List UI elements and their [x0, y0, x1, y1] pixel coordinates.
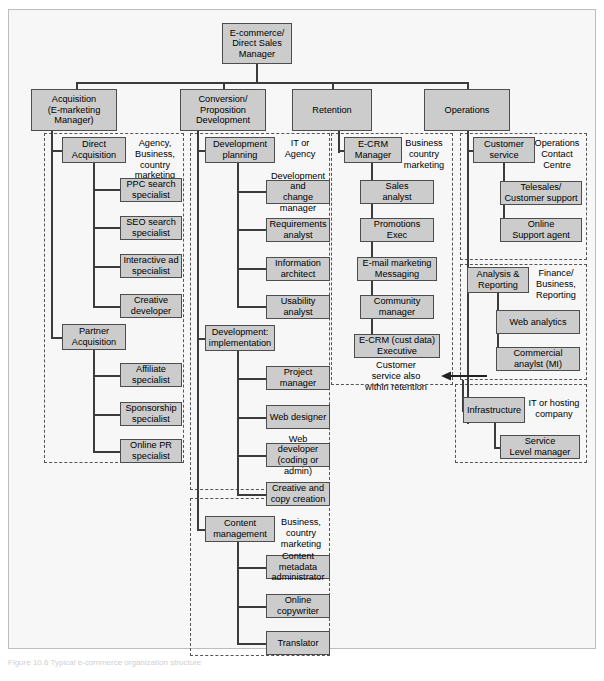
node-acquisition[interactable]: Acquisition (E-marketing Manager) — [31, 89, 117, 131]
node-online-pr-specialist[interactable]: Online PR specialist — [120, 439, 182, 463]
node-development-change-manager[interactable]: Development and change manager — [266, 180, 330, 204]
node-development-planning[interactable]: Development planning — [205, 137, 275, 163]
node-project-manager[interactable]: Project manager — [266, 366, 330, 390]
node-root[interactable]: E-commerce/ Direct Sales Manager — [222, 23, 292, 64]
node-service-level-manager[interactable]: Service Level manager — [500, 435, 580, 459]
node-conversion[interactable]: Conversion/ Proposition Development — [180, 89, 266, 131]
node-content-metadata-administrator[interactable]: Content metadata administrator — [266, 555, 330, 579]
node-telesales-customer-support[interactable]: Telesales/ Customer support — [500, 181, 582, 205]
node-sponsorship-specialist[interactable]: Sponsorship specialist — [120, 402, 182, 426]
caption-analysis-reporting-partner: Finance/ Business, Reporting — [528, 268, 584, 300]
node-creative-copy-creation[interactable]: Creative and copy creation — [266, 482, 330, 506]
node-creative-developer[interactable]: Creative developer — [120, 294, 182, 318]
caption-customer-service-partner: Operations Contact Centre — [531, 138, 583, 170]
connector-root-stem — [256, 64, 258, 83]
connector-development-implementation-reports — [237, 351, 269, 496]
node-content-management[interactable]: Content management — [205, 516, 275, 542]
node-direct-acquisition[interactable]: Direct Acquisition — [62, 137, 126, 163]
connector-conversion-spine — [197, 131, 199, 531]
node-translator[interactable]: Translator — [266, 631, 330, 655]
caption-ecrm-manager-partner: Business country marketing — [399, 138, 449, 170]
node-ppc-search-specialist[interactable]: PPC search specialist — [120, 178, 182, 202]
connector-level1-bus — [76, 82, 468, 84]
connector-content-management-reports — [237, 542, 269, 645]
node-partner-acquisition[interactable]: Partner Acquisition — [62, 324, 126, 350]
node-web-analytics[interactable]: Web analytics — [496, 310, 580, 334]
connector-direct-acquisition-reports — [93, 163, 123, 308]
node-ecrm-manager[interactable]: E-CRM Manager — [344, 137, 402, 163]
node-development-implementation[interactable]: Development: implementation — [205, 325, 275, 351]
node-sales-analyst[interactable]: Sales analyst — [360, 180, 434, 204]
node-web-designer[interactable]: Web designer — [266, 405, 330, 429]
node-affiliate-specialist[interactable]: Affiliate specialist — [120, 363, 182, 387]
arrow-customer-service-link — [441, 370, 487, 382]
node-community-manager[interactable]: Community manager — [360, 295, 434, 319]
caption-content-management-partner: Business, country marketing — [276, 517, 326, 549]
node-ecrm-cust-data-executive[interactable]: E-CRM (cust data) Executive — [354, 334, 440, 358]
node-requirements-analyst[interactable]: Requirements analyst — [266, 218, 330, 242]
node-promotions-exec[interactable]: Promotions Exec — [360, 218, 434, 242]
note-customer-service-within-retention: Customer service also within retention — [352, 360, 440, 392]
node-customer-service[interactable]: Customer service — [473, 137, 535, 163]
node-interactive-ad-specialist[interactable]: Interactive ad specialist — [120, 254, 182, 278]
node-retention[interactable]: Retention — [292, 89, 372, 131]
connector-acquisition-spine — [51, 131, 53, 338]
node-online-support-agent[interactable]: Online Support agent — [500, 218, 582, 242]
node-web-developer[interactable]: Web developer (coding or admin) — [266, 443, 330, 467]
node-usability-analyst[interactable]: Usability analyst — [266, 295, 330, 319]
connector-development-planning-reports — [237, 163, 269, 308]
caption-development-planning-partner: IT or Agency — [277, 138, 323, 160]
org-chart-figure: E-commerce/ Direct Sales Manager Acquisi… — [0, 0, 604, 681]
caption-infrastructure-partner: IT or hosting company — [524, 398, 584, 420]
node-analysis-reporting[interactable]: Analysis & Reporting — [467, 267, 529, 293]
node-commercial-analyst-mi[interactable]: Commercial anaylst (MI) — [496, 347, 580, 371]
figure-caption: Figure 10.6 Typical e-commerce organizat… — [8, 657, 508, 668]
node-operations[interactable]: Operations — [424, 89, 510, 131]
node-infrastructure[interactable]: Infrastructure — [463, 397, 525, 423]
caption-direct-acquisition-partner: Agency, Business, country marketing — [128, 138, 182, 181]
connector-partner-acquisition-reports — [93, 350, 123, 453]
node-email-marketing-messaging[interactable]: E-mail marketing Messaging — [357, 257, 437, 281]
node-information-architect[interactable]: Information architect — [266, 257, 330, 281]
node-seo-search-specialist[interactable]: SEO search specialist — [120, 216, 182, 240]
node-online-copywriter[interactable]: Online copywriter — [266, 594, 330, 618]
